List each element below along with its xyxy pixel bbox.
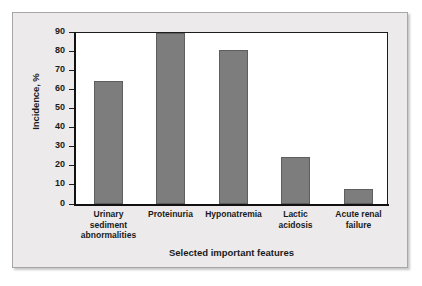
y-tick-label: 40 (55, 121, 65, 131)
y-axis-line (74, 32, 76, 206)
bar-hyponatremia[interactable] (219, 50, 248, 204)
x-category-label-proteinuria: Proteinuria (139, 209, 202, 220)
y-tick-10: 10 (13, 184, 75, 185)
x-axis-line (74, 204, 389, 206)
y-tick-label: 50 (55, 102, 65, 112)
bar-urinary-sediment-abnormalities[interactable] (94, 81, 123, 205)
bar-chart: Incidence, % 90 80 70 60 50 40 30 (13, 13, 409, 269)
y-tick-20: 20 (13, 165, 75, 166)
x-category-label-lactic-acidosis: Lactic acidosis (264, 209, 327, 230)
x-category-label-acute-renal-failure: Acute renal failure (327, 209, 390, 230)
y-tick-label: 80 (55, 45, 65, 55)
y-tick-label: 10 (55, 178, 65, 188)
y-tick-label: 20 (55, 159, 65, 169)
y-tick-label: 0 (60, 198, 65, 208)
y-tick-60: 60 (13, 89, 75, 90)
x-axis-title: Selected important features (75, 247, 388, 258)
y-tick-label: 60 (55, 83, 65, 93)
bar-proteinuria[interactable] (156, 33, 185, 204)
figure-panel: Incidence, % 90 80 70 60 50 40 30 (12, 12, 408, 268)
y-tick-70: 70 (13, 70, 75, 71)
y-axis-title: Incidence, % (30, 42, 41, 162)
y-tick-0: 0 (13, 204, 75, 205)
y-tick-label: 90 (55, 26, 65, 36)
bar-acute-renal-failure[interactable] (344, 189, 373, 204)
y-tick-40: 40 (13, 127, 75, 128)
x-category-label-hyponatremia: Hyponatremia (201, 209, 266, 220)
y-tick-label: 70 (55, 64, 65, 74)
bar-lactic-acidosis[interactable] (281, 157, 310, 205)
x-category-label-urinary-sediment-abnormalities: Urinary sediment abnormalities (77, 209, 140, 241)
y-tick-90: 90 (13, 32, 75, 33)
y-tick-30: 30 (13, 146, 75, 147)
y-tick-80: 80 (13, 51, 75, 52)
y-tick-label: 30 (55, 140, 65, 150)
y-tick-50: 50 (13, 108, 75, 109)
